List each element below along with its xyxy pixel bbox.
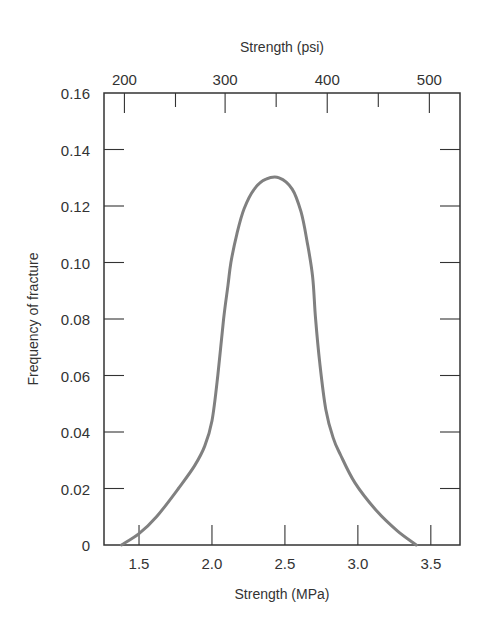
y-axis-title: Frequency of fracture — [25, 252, 41, 385]
y-tick-label: 0.06 — [61, 368, 90, 385]
plot-frame — [104, 93, 460, 545]
x2-tick-label: 500 — [417, 71, 442, 88]
x2-tick-label: 400 — [315, 71, 340, 88]
ticks-layer — [104, 93, 460, 545]
top-axis-title: Strength (psi) — [240, 39, 324, 55]
x-tick-label: 2.0 — [202, 555, 223, 572]
x-tick-label: 3.5 — [420, 555, 441, 572]
x-tick-label: 3.0 — [347, 555, 368, 572]
y-tick-label: 0.10 — [61, 255, 90, 272]
y-tick-label: 0.04 — [61, 424, 90, 441]
y-tick-label: 0.14 — [61, 142, 90, 159]
x2-tick-label: 300 — [213, 71, 238, 88]
y-tick-label: 0.16 — [61, 85, 90, 102]
y-tick-label: 0.08 — [61, 311, 90, 328]
y-tick-label: 0 — [82, 537, 90, 554]
x-tick-label: 1.5 — [129, 555, 150, 572]
x2-tick-label: 200 — [112, 71, 137, 88]
x-tick-label: 2.5 — [274, 555, 295, 572]
chart: 1.52.02.53.03.520030040050000.020.040.06… — [0, 0, 485, 633]
bottom-axis-title: Strength (MPa) — [235, 586, 330, 602]
labels-layer: 1.52.02.53.03.520030040050000.020.040.06… — [61, 71, 442, 572]
y-tick-label: 0.12 — [61, 198, 90, 215]
frequency-curve — [122, 177, 417, 545]
y-tick-label: 0.02 — [61, 481, 90, 498]
